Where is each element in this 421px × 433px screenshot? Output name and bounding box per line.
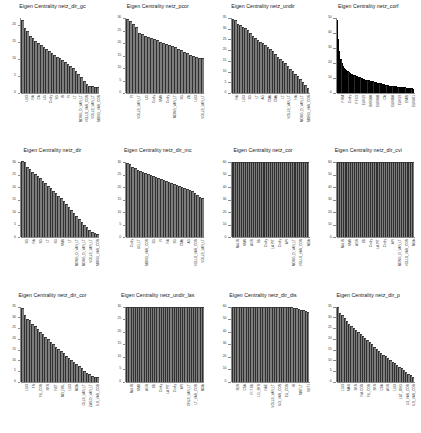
y-tick (123, 307, 126, 308)
x-tick-label: VOLLS_VAR_LT (272, 384, 275, 408)
y-tick-label: 0 (317, 91, 332, 94)
bar (307, 88, 310, 93)
x-tick-label: LT_VAR_COR (195, 384, 198, 404)
x-tick-label: SKR (47, 384, 50, 391)
y-tick (228, 175, 231, 176)
x-tick-label: CA (38, 95, 41, 99)
x-tick-label: ILS_VAR_COR (413, 384, 416, 406)
y-tick (228, 61, 231, 62)
x-tick-label: CSA (381, 384, 384, 391)
panel-title: Eigen Centrality netz_dir_p (316, 292, 421, 298)
y-tick (228, 307, 231, 308)
x-tick-label: MOA (202, 384, 205, 391)
y-tick (18, 317, 21, 318)
x-tick-label: MORG_D_VAR_LT (399, 239, 402, 266)
y-tick-label: 35 (212, 16, 227, 19)
y-tick (123, 357, 126, 358)
x-tick-label: LBO (26, 95, 29, 101)
x-tick-label: MGA (308, 239, 311, 246)
y-tick (18, 59, 21, 60)
y-tick (18, 237, 21, 238)
x-tick-label: SG (174, 239, 177, 244)
bar-series (21, 307, 99, 382)
y-tick-label: 10 (1, 57, 16, 60)
bar (307, 312, 309, 382)
x-tick-label: NMR (244, 239, 247, 246)
plot-area: 01020304050F.RMCndtyF.FI.OEUR19DKK020EUR… (316, 14, 421, 144)
x-tick-label: FI (131, 95, 134, 98)
y-tick-label: 40 (212, 330, 227, 333)
y-tick-label: 30 (1, 161, 16, 164)
x-tick-label: RA (33, 239, 36, 243)
y-tick (228, 50, 231, 51)
y-tick (123, 18, 126, 19)
x-tick-label: VOLLS_VAR_COR (300, 239, 303, 266)
x-tick-label: VOLLS_VAR_LT (202, 95, 205, 119)
y-tick-label: 50 (317, 16, 332, 19)
chart-panel-1: Eigen Centrality netz_pcor051015202530FI… (105, 0, 210, 144)
y-tick-label: 40 (317, 186, 332, 189)
bar (412, 162, 414, 237)
panel-title: Eigen Centrality netz_cor (211, 147, 316, 153)
y-tick-label: 40 (212, 186, 227, 189)
y-tick-label: 20 (212, 48, 227, 51)
y-tick-label: 5 (1, 74, 16, 77)
panel-title: Eigen Centrality netz_undir_las (105, 292, 210, 298)
bar (201, 198, 204, 237)
y-tick (333, 93, 336, 94)
y-tick-label: 15 (212, 59, 227, 62)
y-tick-label: 30 (1, 316, 16, 319)
plot-area: 05101520253035RALBOSGLTAGCMACMALTVOLLS_V… (211, 14, 316, 144)
x-tick-label: LT (74, 95, 77, 98)
x-tick-label: MORG_D_VAR_LT (301, 95, 304, 122)
y-tick-label: 50 (212, 173, 227, 176)
y-tick-label: 0 (212, 91, 227, 94)
y-tick (228, 332, 231, 333)
y-tick (333, 212, 336, 213)
x-tick-label: EMIR (406, 95, 409, 103)
x-tick-label: RA (167, 239, 170, 243)
bar (413, 89, 414, 94)
x-tick-label: EUR010 (377, 95, 380, 107)
y-tick (333, 339, 336, 340)
panel-title: Eigen Centrality netz_dir_dis (211, 292, 316, 298)
y-tick-label: 30 (106, 161, 121, 164)
y-tick-label: 20 (212, 211, 227, 214)
panel-title: Eigen Centrality netz_dir_gc (0, 3, 105, 9)
y-tick (123, 31, 126, 32)
x-tick-label: CMA (275, 95, 278, 102)
y-tick (18, 25, 21, 26)
x-tick-label: F.RM (342, 95, 345, 102)
y-tick (333, 328, 336, 329)
y-tick (123, 319, 126, 320)
chart-panel-3: Eigen Centrality netz_corf01020304050F.R… (316, 0, 421, 144)
bar-series (126, 307, 204, 382)
x-tick-label: UG (44, 95, 47, 100)
x-tick-label: AGR (251, 239, 254, 246)
y-tick (228, 18, 231, 19)
x-tick-label: NMR (138, 384, 141, 391)
y-tick (18, 162, 21, 163)
plot-area: 051015202530Mol.IRNMRAGRSBCndtyLA.PITCnd… (105, 303, 210, 433)
x-tick-label: RET.I (308, 384, 311, 392)
x-tick-label: EUR050 (392, 95, 395, 107)
x-tick-label: UG_LT (138, 239, 141, 249)
y-tick-label: 60 (212, 305, 227, 308)
x-tick-label: HA (295, 95, 298, 99)
x-tick-label: ILS_VAR_COR (97, 384, 100, 406)
y-tick-label: 20 (212, 355, 227, 358)
y-tick-label: 20 (317, 61, 332, 64)
x-tick-label: LO_VAR_COR (407, 384, 410, 405)
x-axis-line (232, 382, 310, 383)
y-tick-label: 0 (212, 236, 227, 239)
x-tick-label: Cndty (153, 95, 156, 103)
y-tick-label: 20 (1, 186, 16, 189)
x-tick-label: VOLLS_VAR_LT (138, 95, 141, 119)
y-tick (228, 357, 231, 358)
x-tick-label: LT (69, 239, 72, 242)
bar-series (337, 307, 415, 382)
y-tick (123, 369, 126, 370)
x-tick-label: FI.T.SB (251, 384, 254, 394)
bar (202, 307, 204, 382)
y-tick-label: 10 (106, 66, 121, 69)
